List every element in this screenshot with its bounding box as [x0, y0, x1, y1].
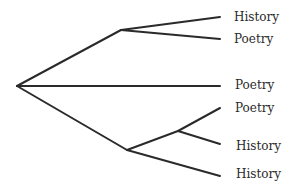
leaf-label: History	[234, 10, 279, 24]
leaf-label: History	[236, 167, 281, 181]
branch-subnode-history	[178, 131, 220, 144]
branch-root-lower	[17, 86, 127, 150]
leaf-label: History	[236, 139, 281, 153]
branch-root-upper	[17, 30, 121, 86]
tree-diagram	[0, 0, 297, 194]
branch-lower-subnode	[127, 131, 178, 150]
branch-upper-poetry	[121, 30, 220, 39]
branch-lower-history	[127, 150, 220, 176]
branch-subnode-poetry	[178, 108, 220, 131]
leaf-label: Poetry	[235, 78, 274, 92]
leaf-label: Poetry	[235, 101, 274, 115]
branch-upper-history	[121, 17, 220, 30]
leaf-label: Poetry	[234, 32, 273, 46]
